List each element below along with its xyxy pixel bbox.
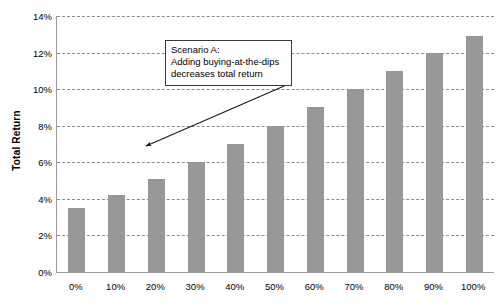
y-tick-label: 14% [33, 11, 52, 22]
x-tick-slot: 80% [374, 276, 414, 294]
y-tick-label: 8% [38, 120, 52, 131]
y-tick-label: 12% [33, 47, 52, 58]
x-tick-label: 20% [146, 281, 165, 292]
x-tick-label: 0% [69, 281, 83, 292]
bar [108, 195, 125, 272]
bar [347, 89, 364, 272]
x-tick-label: 50% [265, 281, 284, 292]
bar-slot [295, 16, 335, 272]
bar-slot [454, 16, 494, 272]
bar-slot [57, 16, 97, 272]
y-tick-label: 10% [33, 84, 52, 95]
x-tick-label: 10% [106, 281, 125, 292]
x-tick-slot: 40% [215, 276, 255, 294]
x-tick-slot: 0% [56, 276, 96, 294]
x-tick-slot: 30% [175, 276, 215, 294]
annotation-line: Scenario A: [171, 44, 286, 56]
bar-slot [375, 16, 415, 272]
bar-chart: Total Return 0%2%4%6%8%10%12%14% 0%10%20… [0, 0, 500, 307]
bar [148, 179, 165, 272]
x-tick-slot: 90% [414, 276, 454, 294]
bar [68, 208, 85, 272]
bar [227, 144, 244, 272]
annotation-line: decreases total return [171, 68, 286, 80]
scenario-a-callout: Scenario A:Adding buying-at-the-dipsdecr… [165, 40, 292, 86]
x-tick-slot: 100% [453, 276, 493, 294]
bar-slot [97, 16, 137, 272]
bar [188, 162, 205, 272]
x-tick-label: 90% [424, 281, 443, 292]
x-tick-label: 70% [345, 281, 364, 292]
bar [307, 107, 324, 272]
y-tick-label: 2% [38, 230, 52, 241]
x-tick-label: 30% [186, 281, 205, 292]
x-tick-slot: 50% [255, 276, 295, 294]
bar [466, 36, 483, 272]
x-tick-label: 60% [305, 281, 324, 292]
annotation-line: Adding buying-at-the-dips [171, 56, 286, 68]
x-tick-slot: 10% [96, 276, 136, 294]
bar-slot [415, 16, 455, 272]
x-axis-tick-labels: 0%10%20%30%40%50%60%70%80%90%100% [56, 276, 493, 294]
y-tick-label: 0% [38, 267, 52, 278]
x-tick-slot: 60% [294, 276, 334, 294]
y-tick-label: 4% [38, 193, 52, 204]
bar [267, 126, 284, 272]
y-axis-title-label: Total Return [11, 110, 22, 171]
y-axis-tick-labels: 0%2%4%6%8%10%12%14% [22, 16, 52, 272]
x-tick-slot: 70% [334, 276, 374, 294]
bar [386, 71, 403, 272]
x-tick-slot: 20% [135, 276, 175, 294]
x-tick-label: 40% [225, 281, 244, 292]
x-tick-label: 100% [461, 281, 485, 292]
y-tick-label: 6% [38, 157, 52, 168]
bar [426, 53, 443, 272]
x-tick-label: 80% [384, 281, 403, 292]
bar-slot [335, 16, 375, 272]
